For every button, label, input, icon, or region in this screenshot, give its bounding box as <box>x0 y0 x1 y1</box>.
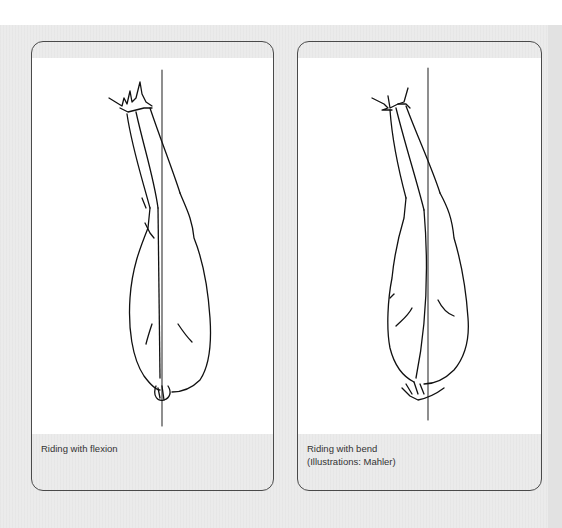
figure-panel-flexion: Riding with flexion <box>31 41 274 491</box>
illustration-area <box>298 58 541 434</box>
figure-caption: Riding with bend (Illustrations: Mahler) <box>307 442 396 468</box>
figure-caption: Riding with flexion <box>41 442 118 455</box>
caption-line: Riding with bend <box>307 442 396 455</box>
caption-credit: (Illustrations: Mahler) <box>307 455 396 468</box>
page-edge-strip <box>548 25 562 528</box>
horse-bend-illustration <box>298 58 542 434</box>
illustration-area <box>32 58 273 434</box>
horse-flexion-illustration <box>32 58 274 434</box>
caption-line: Riding with flexion <box>41 442 118 455</box>
figure-panel-bend: Riding with bend (Illustrations: Mahler) <box>297 41 542 491</box>
